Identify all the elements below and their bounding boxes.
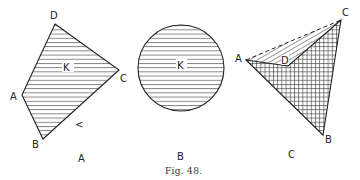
quadrilateral-adcb bbox=[246, 20, 341, 135]
vertex-label-c: C bbox=[120, 73, 127, 84]
vertex-label-c: C bbox=[342, 7, 349, 18]
vertex-label-d: D bbox=[50, 10, 58, 21]
quadrilateral-abcd bbox=[22, 24, 119, 139]
panel-a: D C B A K < A bbox=[10, 10, 127, 164]
region-label-k: K bbox=[177, 60, 184, 71]
panel-c: A D C B C bbox=[235, 7, 349, 160]
edge-mark: < bbox=[75, 119, 83, 130]
vertex-label-a: A bbox=[10, 91, 17, 102]
panel-caption-a: A bbox=[78, 153, 85, 164]
vertex-label-b: B bbox=[325, 134, 332, 145]
figure-48: D C B A K < A K B A D C B C Fig. 48. bbox=[0, 0, 360, 180]
panel-b: K B bbox=[138, 25, 224, 162]
region-label-k: K bbox=[63, 62, 70, 73]
panel-caption-b: B bbox=[177, 151, 184, 162]
figure-caption: Fig. 48. bbox=[165, 166, 202, 176]
vertex-label-a: A bbox=[235, 53, 242, 64]
panel-caption-c: C bbox=[288, 149, 295, 160]
vertex-label-b: B bbox=[32, 139, 39, 150]
vertex-label-d: D bbox=[281, 55, 289, 66]
